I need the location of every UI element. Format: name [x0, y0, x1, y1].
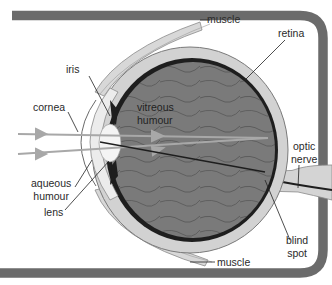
label-blind-line1: blind [286, 234, 308, 247]
label-aqueous-humour: aqueous humour [31, 177, 71, 203]
eye-diagram [0, 0, 332, 285]
label-muscle-top: muscle [207, 13, 240, 26]
label-vitreous-line1: vitreous [137, 101, 174, 114]
label-aqueous-line2: humour [31, 190, 71, 203]
arrow-icon [36, 149, 46, 159]
retina-veins [111, 62, 275, 238]
label-optic-nerve: optic nerve [291, 140, 317, 166]
arrow-icon [36, 129, 46, 139]
label-cornea: cornea [33, 101, 65, 114]
label-blind-spot: blind spot [286, 234, 308, 260]
label-optic-line1: optic [291, 140, 317, 153]
label-optic-line2: nerve [291, 153, 317, 166]
label-blind-line2: spot [286, 247, 308, 260]
label-vitreous-line2: humour [137, 114, 174, 127]
label-aqueous-line1: aqueous [31, 177, 71, 190]
label-iris: iris [66, 63, 79, 76]
label-vitreous-humour: vitreous humour [137, 101, 174, 127]
label-muscle-bottom: muscle [217, 256, 250, 269]
label-lens: lens [44, 206, 63, 219]
label-retina: retina [278, 27, 304, 40]
